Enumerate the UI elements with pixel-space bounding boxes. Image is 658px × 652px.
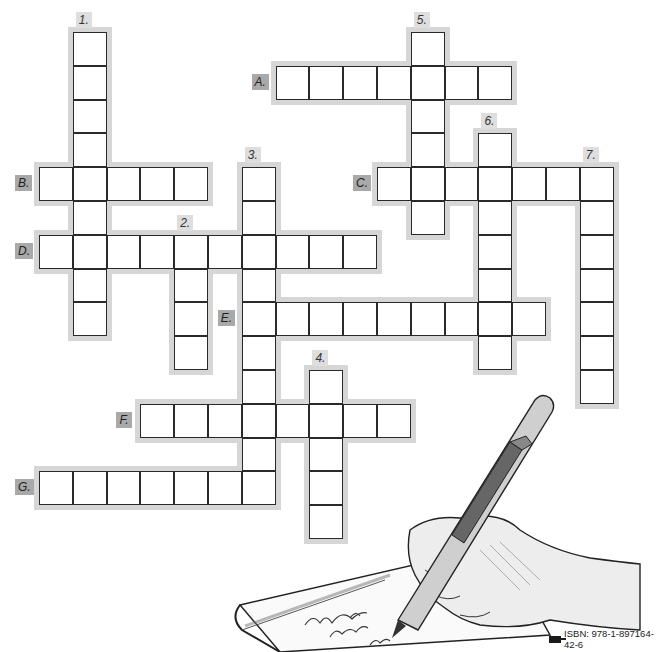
grid-cell[interactable]	[478, 336, 512, 370]
grid-cell[interactable]	[512, 167, 546, 201]
cell-input[interactable]	[277, 67, 309, 99]
cell-input[interactable]	[479, 236, 511, 268]
cell-input[interactable]	[74, 303, 106, 335]
grid-cell[interactable]	[478, 235, 512, 269]
grid-cell[interactable]	[276, 66, 310, 100]
cell-input[interactable]	[344, 67, 376, 99]
grid-cell[interactable]	[73, 167, 107, 201]
grid-cell[interactable]	[174, 302, 208, 336]
cell-input[interactable]	[412, 303, 444, 335]
grid-cell[interactable]	[309, 302, 343, 336]
cell-input[interactable]	[310, 67, 342, 99]
cell-input[interactable]	[175, 405, 207, 437]
grid-cell[interactable]	[512, 302, 546, 336]
grid-cell[interactable]	[73, 269, 107, 303]
grid-cell[interactable]	[478, 302, 512, 336]
grid-cell[interactable]	[546, 167, 580, 201]
cell-input[interactable]	[446, 168, 478, 200]
grid-cell[interactable]	[445, 167, 479, 201]
cell-input[interactable]	[141, 236, 173, 268]
cell-input[interactable]	[74, 202, 106, 234]
grid-cell[interactable]	[208, 235, 242, 269]
grid-cell[interactable]	[174, 471, 208, 505]
grid-cell[interactable]	[242, 302, 276, 336]
grid-cell[interactable]	[39, 471, 73, 505]
grid-cell[interactable]	[411, 66, 445, 100]
cell-input[interactable]	[277, 303, 309, 335]
cell-input[interactable]	[243, 303, 275, 335]
cell-input[interactable]	[277, 236, 309, 268]
cell-input[interactable]	[108, 168, 140, 200]
cell-input[interactable]	[40, 236, 72, 268]
grid-cell[interactable]	[309, 66, 343, 100]
grid-cell[interactable]	[174, 336, 208, 370]
cell-input[interactable]	[581, 303, 613, 335]
cell-input[interactable]	[74, 472, 106, 504]
grid-cell[interactable]	[276, 302, 310, 336]
grid-cell[interactable]	[174, 404, 208, 438]
cell-input[interactable]	[479, 270, 511, 302]
cell-input[interactable]	[243, 337, 275, 369]
cell-input[interactable]	[547, 168, 579, 200]
cell-input[interactable]	[175, 168, 207, 200]
cell-input[interactable]	[108, 472, 140, 504]
cell-input[interactable]	[378, 303, 410, 335]
cell-input[interactable]	[310, 303, 342, 335]
cell-input[interactable]	[74, 33, 106, 65]
cell-input[interactable]	[108, 236, 140, 268]
grid-cell[interactable]	[377, 66, 411, 100]
grid-cell[interactable]	[107, 235, 141, 269]
grid-cell[interactable]	[73, 100, 107, 134]
grid-cell[interactable]	[107, 167, 141, 201]
cell-input[interactable]	[74, 134, 106, 166]
cell-input[interactable]	[581, 270, 613, 302]
grid-cell[interactable]	[411, 167, 445, 201]
grid-cell[interactable]	[73, 235, 107, 269]
grid-cell[interactable]	[478, 201, 512, 235]
grid-cell[interactable]	[39, 235, 73, 269]
cell-input[interactable]	[175, 337, 207, 369]
cell-input[interactable]	[40, 168, 72, 200]
cell-input[interactable]	[175, 303, 207, 335]
cell-input[interactable]	[513, 168, 545, 200]
grid-cell[interactable]	[242, 201, 276, 235]
grid-cell[interactable]	[343, 302, 377, 336]
cell-input[interactable]	[175, 270, 207, 302]
cell-input[interactable]	[479, 134, 511, 166]
grid-cell[interactable]	[580, 201, 614, 235]
cell-input[interactable]	[175, 236, 207, 268]
grid-cell[interactable]	[73, 32, 107, 66]
grid-cell[interactable]	[411, 201, 445, 235]
cell-input[interactable]	[479, 202, 511, 234]
grid-cell[interactable]	[73, 201, 107, 235]
grid-cell[interactable]	[445, 302, 479, 336]
grid-cell[interactable]	[580, 302, 614, 336]
grid-cell[interactable]	[343, 66, 377, 100]
cell-input[interactable]	[141, 405, 173, 437]
cell-input[interactable]	[412, 33, 444, 65]
grid-cell[interactable]	[580, 269, 614, 303]
cell-input[interactable]	[40, 472, 72, 504]
grid-cell[interactable]	[580, 336, 614, 370]
cell-input[interactable]	[243, 202, 275, 234]
grid-cell[interactable]	[242, 167, 276, 201]
cell-input[interactable]	[412, 202, 444, 234]
grid-cell[interactable]	[73, 133, 107, 167]
cell-input[interactable]	[209, 236, 241, 268]
cell-input[interactable]	[243, 236, 275, 268]
cell-input[interactable]	[412, 134, 444, 166]
cell-input[interactable]	[243, 270, 275, 302]
grid-cell[interactable]	[73, 66, 107, 100]
grid-cell[interactable]	[140, 235, 174, 269]
grid-cell[interactable]	[174, 235, 208, 269]
grid-cell[interactable]	[478, 167, 512, 201]
grid-cell[interactable]	[140, 404, 174, 438]
cell-input[interactable]	[243, 168, 275, 200]
cell-input[interactable]	[412, 168, 444, 200]
grid-cell[interactable]	[73, 471, 107, 505]
grid-cell[interactable]	[580, 167, 614, 201]
cell-input[interactable]	[141, 472, 173, 504]
cell-input[interactable]	[74, 168, 106, 200]
cell-input[interactable]	[74, 270, 106, 302]
cell-input[interactable]	[479, 303, 511, 335]
